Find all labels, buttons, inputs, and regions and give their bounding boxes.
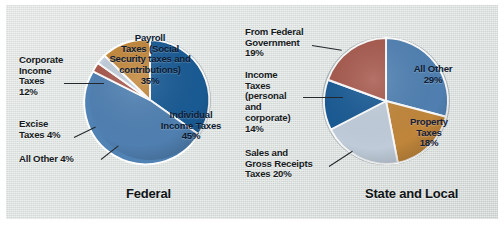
state-local-slice-label-property-taxes: Property Taxes 18% (398, 117, 460, 149)
state-local-slice-label-from-federal-government: From Federal Government 19% (245, 27, 329, 59)
state-and-local-pie-chart: All Other 29% Property Taxes 18% From Fe… (0, 0, 504, 229)
state-local-slice-label-sales-gross-receipts: Sales and Gross Receipts Taxes 20% (245, 148, 331, 180)
state-local-slice-label-income-taxes: Income Taxes (personal and corporate) 14… (245, 70, 315, 134)
leader-line-income-taxes (303, 97, 343, 98)
state-local-slice-label-all-other: All Other 29% (400, 64, 466, 85)
state-and-local-chart-title: State and Local (365, 186, 458, 201)
tax-revenue-pie-figure: Payroll Taxes (Social Security taxes and… (0, 0, 504, 229)
